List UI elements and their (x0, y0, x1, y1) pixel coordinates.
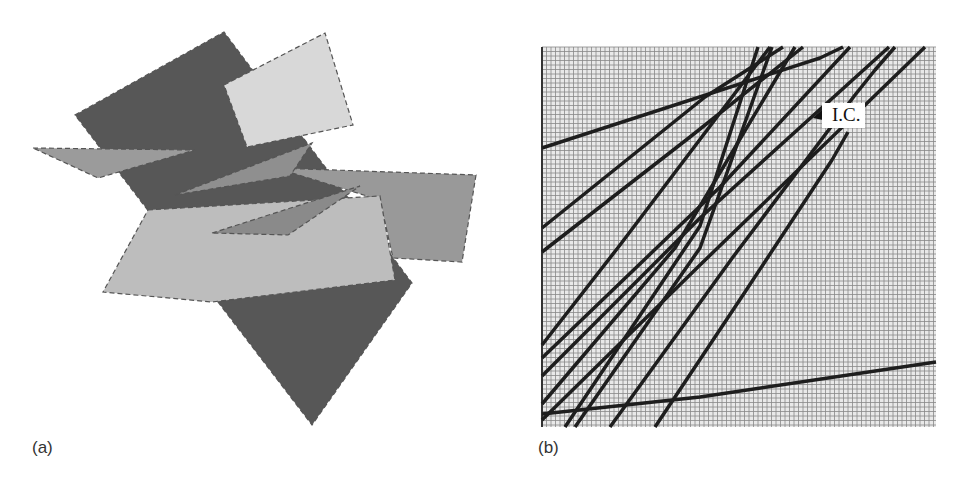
grid-trajectories-plot (0, 0, 969, 483)
ic-text: I.C. (832, 104, 861, 125)
initial-condition-label: I.C. (822, 103, 865, 128)
